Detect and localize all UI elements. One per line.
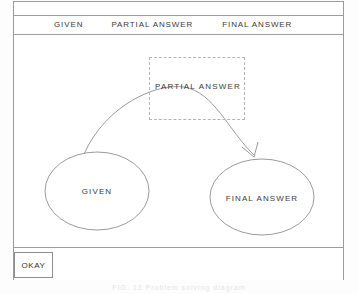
okay-button[interactable]: OKAY <box>14 252 53 278</box>
figure-caption: FIG. 13 Problem solving diagram <box>0 284 358 294</box>
node-box-partial-answer[interactable]: PARTIAL ANSWER <box>149 57 245 120</box>
node-label-final-answer: FINAL ANSWER <box>210 194 314 203</box>
window-footer: OKAY <box>14 247 343 280</box>
menu-bar: GIVEN PARTIAL ANSWER FINAL ANSWER <box>14 15 343 35</box>
node-label-partial-answer: PARTIAL ANSWER <box>150 82 246 91</box>
okay-button-label: OKAY <box>21 261 45 270</box>
diagram-canvas[interactable]: PARTIAL ANSWER GIVEN FINAL ANSWER <box>14 35 343 247</box>
menu-item-partial-answer[interactable]: PARTIAL ANSWER <box>109 21 195 29</box>
application-window: GIVEN PARTIAL ANSWER FINAL ANSWER PARTIA… <box>13 1 344 280</box>
menu-item-final-answer[interactable]: FINAL ANSWER <box>220 21 294 29</box>
scanned-page: GIVEN PARTIAL ANSWER FINAL ANSWER PARTIA… <box>0 0 358 294</box>
node-label-given: GIVEN <box>45 187 149 196</box>
menu-item-given[interactable]: GIVEN <box>52 21 85 29</box>
